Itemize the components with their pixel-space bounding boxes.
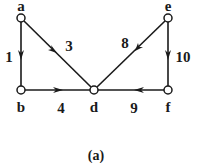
node-a bbox=[17, 14, 25, 22]
node-label-e: e bbox=[165, 0, 172, 14]
node-b bbox=[17, 86, 25, 94]
node-label-d: d bbox=[90, 99, 99, 115]
weight-e-d: 8 bbox=[121, 35, 129, 51]
graph-diagram: a b d e f 1 3 4 8 9 10 (a) bbox=[0, 0, 207, 163]
edges bbox=[21, 21, 168, 90]
figure-caption: (a) bbox=[88, 148, 105, 163]
node-label-b: b bbox=[17, 99, 25, 115]
nodes bbox=[17, 14, 172, 94]
edge-e-d bbox=[97, 21, 165, 87]
node-label-a: a bbox=[17, 0, 25, 14]
node-e bbox=[164, 14, 172, 22]
edge-a-d bbox=[24, 21, 91, 87]
weight-b-d: 4 bbox=[57, 100, 65, 116]
node-labels: a b d e f bbox=[17, 0, 172, 115]
weight-a-d: 3 bbox=[65, 38, 73, 54]
weight-e-f: 10 bbox=[176, 49, 191, 65]
weight-f-d: 9 bbox=[130, 100, 138, 116]
node-d bbox=[90, 86, 98, 94]
weight-a-b: 1 bbox=[5, 49, 13, 65]
node-label-f: f bbox=[166, 99, 172, 115]
node-f bbox=[164, 86, 172, 94]
